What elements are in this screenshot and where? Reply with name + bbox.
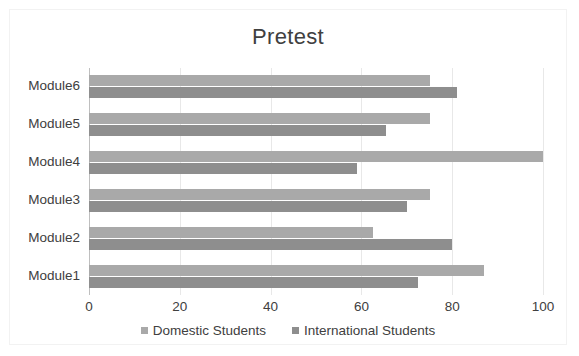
bar-domestic-module2[interactable] — [89, 227, 373, 238]
legend-swatch-icon-domestic — [141, 327, 148, 334]
bar-domestic-module3[interactable] — [89, 189, 430, 200]
chart-legend: Domestic Students International Students — [10, 323, 566, 338]
bar-group-module5: Module5 — [89, 113, 543, 136]
category-label-module1: Module1 — [0, 269, 80, 283]
bar-group-module6: Module6 — [89, 75, 543, 98]
legend-swatch-icon-international — [292, 327, 299, 334]
x-tick-label-60: 60 — [354, 299, 369, 314]
x-tick-label-40: 40 — [263, 299, 278, 314]
legend-item-domestic[interactable]: Domestic Students — [141, 323, 266, 338]
gridline-x-40 — [271, 68, 272, 295]
category-label-module3: Module3 — [0, 193, 80, 207]
legend-item-international[interactable]: International Students — [292, 323, 435, 338]
bar-group-module4: Module4 — [89, 151, 543, 174]
gridline-x-20 — [180, 68, 181, 295]
bar-international-module4[interactable] — [89, 163, 357, 174]
bar-group-module1: Module1 — [89, 265, 543, 288]
x-tick-label-100: 100 — [532, 299, 555, 314]
gridline-x-100 — [543, 68, 544, 295]
bar-group-module3: Module3 — [89, 189, 543, 212]
bar-group-module2: Module2 — [89, 227, 543, 250]
category-label-module6: Module6 — [0, 79, 80, 93]
bar-domestic-module1[interactable] — [89, 265, 484, 276]
category-label-module5: Module5 — [0, 117, 80, 131]
bar-domestic-module5[interactable] — [89, 113, 430, 124]
gridline-x-80 — [452, 68, 453, 295]
legend-label-domestic: Domestic Students — [153, 323, 266, 338]
bar-international-module2[interactable] — [89, 239, 452, 250]
x-tick-label-80: 80 — [445, 299, 460, 314]
x-tick-label-0: 0 — [85, 299, 93, 314]
plot-area: Module1Module2Module3Module4Module5Modul… — [89, 68, 543, 295]
bar-domestic-module6[interactable] — [89, 75, 430, 86]
gridline-x-60 — [361, 68, 362, 295]
category-label-module4: Module4 — [0, 155, 80, 169]
x-tick-label-20: 20 — [172, 299, 187, 314]
category-label-module2: Module2 — [0, 231, 80, 245]
bar-international-module3[interactable] — [89, 201, 407, 212]
bar-domestic-module4[interactable] — [89, 151, 543, 162]
y-axis-line — [89, 68, 90, 295]
chart-title: Pretest — [10, 24, 566, 50]
x-axis-tick-labels: 020406080100 — [89, 299, 543, 319]
bar-international-module6[interactable] — [89, 87, 457, 98]
bar-international-module1[interactable] — [89, 277, 418, 288]
bar-international-module5[interactable] — [89, 125, 386, 136]
chart-container: Pretest Module1Module2Module3Module4Modu… — [9, 9, 567, 345]
legend-label-international: International Students — [304, 323, 435, 338]
